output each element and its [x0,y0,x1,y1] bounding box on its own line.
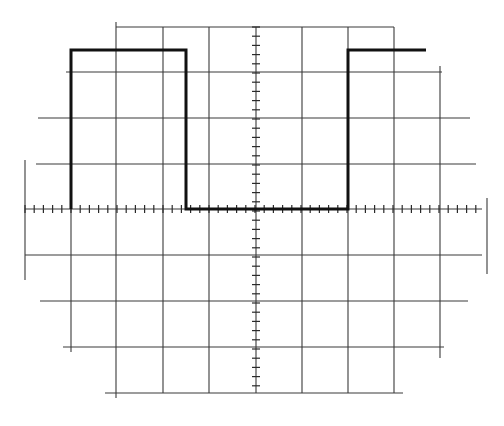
oscilloscope-graticule [0,0,504,426]
square-wave-trace [71,50,426,209]
minor-ticks [25,27,476,386]
